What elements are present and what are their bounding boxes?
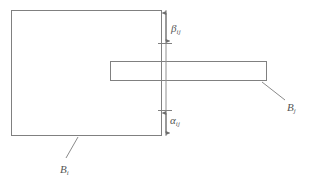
block-j-rectangle (111, 62, 267, 81)
figure-canvas: βij αij Bj Bi (0, 0, 311, 183)
diagram-svg (0, 0, 311, 183)
block-j-label: Bj (287, 98, 296, 115)
beta-dimension-label: βij (171, 19, 181, 36)
block-j-leader-line (262, 82, 285, 100)
block-i-rectangle (12, 11, 162, 136)
block-i-symbol: B (60, 163, 67, 175)
block-j-symbol: B (287, 101, 294, 113)
beta-subscript: ij (176, 28, 180, 36)
alpha-dimension-label: αij (170, 111, 180, 128)
block-i-label: Bi (60, 160, 69, 177)
block-i-subscript: i (67, 169, 69, 177)
alpha-subscript: ij (176, 120, 180, 128)
block-j-subscript: j (294, 107, 296, 115)
block-i-leader-line (66, 137, 78, 158)
